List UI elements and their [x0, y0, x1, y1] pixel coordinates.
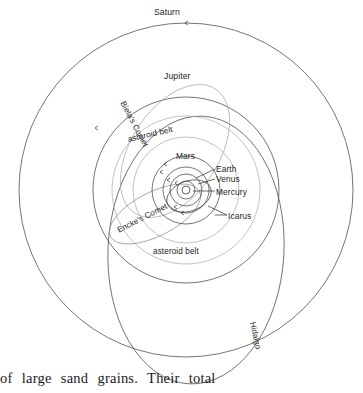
- label-asteroid-belt-lower: asteroid belt: [153, 248, 199, 256]
- sun-marker: [182, 186, 190, 194]
- solar-system-figure: Saturn Jupiter Mars Earth Venus Mercury …: [0, 0, 363, 393]
- label-venus: Venus: [216, 175, 240, 183]
- body-text-line: of large sand grains. Their total: [0, 370, 363, 387]
- orbit-direction-arrows: [95, 21, 188, 215]
- label-earth: Earth: [216, 165, 237, 173]
- label-jupiter: Jupiter: [164, 72, 191, 81]
- label-icarus: Icarus: [228, 212, 251, 220]
- label-mars: Mars: [176, 152, 195, 160]
- label-saturn: Saturn: [154, 8, 180, 17]
- label-mercury: Mercury: [216, 188, 247, 196]
- orbit-diagram-canvas: [0, 0, 363, 393]
